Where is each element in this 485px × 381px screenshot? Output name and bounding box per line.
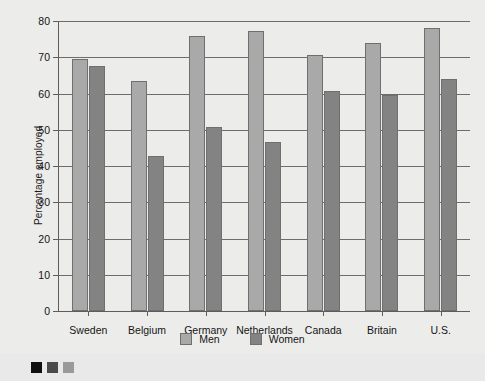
y-axis-tick <box>53 21 59 22</box>
bar-germany-men <box>189 36 205 312</box>
bar-sweden-men <box>72 59 88 311</box>
bar-sweden-women <box>89 66 105 311</box>
bar-britain-men <box>365 43 381 311</box>
bar-britain-women <box>382 95 398 311</box>
chart-legend: MenWomen <box>0 333 485 345</box>
bar-canada-men <box>307 55 323 311</box>
bar-canada-women <box>324 91 340 311</box>
bar-netherlands-women <box>265 142 281 311</box>
plot-area: 01020304050607080 SwedenBelgiumGermanyNe… <box>58 21 470 312</box>
gridline <box>59 94 470 95</box>
bar-us-men <box>424 28 440 311</box>
plot-area-wrapper: Percentage employed 01020304050607080 Sw… <box>0 0 485 353</box>
bar-us-women <box>441 79 457 311</box>
y-axis-tick-label: 30 <box>38 196 50 208</box>
legend-label-women: Women <box>269 333 305 345</box>
y-axis-tick <box>53 202 59 203</box>
gridline <box>59 57 470 58</box>
x-axis-tick <box>265 311 266 316</box>
chart-figure: Percentage employed 01020304050607080 Sw… <box>0 0 485 353</box>
y-axis-tick-label: 40 <box>38 160 50 172</box>
y-axis-tick <box>53 275 59 276</box>
bar-netherlands-men <box>248 31 264 311</box>
y-axis-tick <box>53 166 59 167</box>
y-axis-tick <box>53 94 59 95</box>
y-axis-tick-label: 70 <box>38 51 50 63</box>
y-axis-tick <box>53 239 59 240</box>
y-axis-tick-label: 80 <box>38 15 50 27</box>
gridline <box>59 130 470 131</box>
legend-label-men: Men <box>199 333 219 345</box>
y-axis-tick <box>53 311 59 312</box>
y-axis-tick-label: 60 <box>38 88 50 100</box>
x-axis-tick <box>382 311 383 316</box>
men-swatch-icon <box>180 333 192 345</box>
gridline <box>59 21 470 22</box>
women-swatch-icon <box>250 333 262 345</box>
y-axis-tick <box>53 130 59 131</box>
bar-belgium-women <box>148 156 164 311</box>
x-axis-tick <box>88 311 89 316</box>
legend-item-men[interactable]: Men <box>180 333 219 345</box>
x-axis-tick <box>441 311 442 316</box>
calibration-chip-1 <box>31 362 42 373</box>
bar-belgium-men <box>131 81 147 311</box>
y-axis-tick-label: 10 <box>38 269 50 281</box>
calibration-chip-3 <box>63 362 74 373</box>
x-axis-tick <box>206 311 207 316</box>
bar-germany-women <box>206 127 222 311</box>
x-axis-tick <box>147 311 148 316</box>
calibration-chip-2 <box>47 362 58 373</box>
y-axis-title-holder: Percentage employed <box>24 20 38 312</box>
x-axis-tick <box>323 311 324 316</box>
color-calibration-strip <box>0 353 485 381</box>
y-axis-tick-label: 0 <box>44 305 50 317</box>
y-axis-tick <box>53 57 59 58</box>
y-axis-tick-label: 20 <box>38 233 50 245</box>
y-axis-tick-label: 50 <box>38 124 50 136</box>
legend-item-women[interactable]: Women <box>250 333 305 345</box>
